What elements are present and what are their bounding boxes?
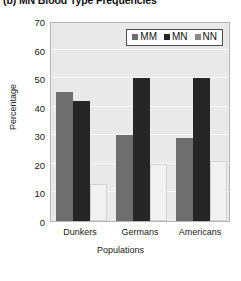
bar-group [116,23,167,221]
chart-legend: MMMNNN [126,29,223,46]
bar-americans-mm [176,138,193,221]
x-axis-title: Populations [0,245,241,255]
bar-group [176,23,227,221]
bar-dunkers-nn [90,184,107,221]
bar-dunkers-mn [73,101,90,221]
bar-group [56,23,107,221]
bar-germans-nn [150,164,167,221]
legend-swatch-icon [164,34,170,40]
y-tick-label: 0 [19,217,45,228]
y-tick-label: 20 [19,159,45,170]
bar-germans-mm [116,135,133,221]
x-tick-label: Germans [121,227,158,237]
x-tick-label: Dunkers [63,227,97,237]
legend-item-mn[interactable]: MN [164,32,188,42]
bar-americans-nn [210,161,227,221]
legend-swatch-icon [132,34,138,40]
x-tick-label: Americans [179,227,222,237]
legend-item-mm[interactable]: MM [132,32,157,42]
bar-americans-mn [193,78,210,221]
bar-dunkers-mm [56,92,73,221]
y-tick-label: 30 [19,131,45,142]
y-tick-label: 40 [19,102,45,113]
chart-figure: (b) MN Blood Type Frequencies Percentage… [0,0,241,281]
y-tick-label: 50 [19,74,45,85]
plot-area: MMMNNN [50,22,230,222]
legend-label: NN [203,32,217,42]
bar-germans-mn [133,78,150,221]
legend-item-nn[interactable]: NN [195,32,217,42]
y-axis-title: Percentage [8,67,18,147]
legend-swatch-icon [195,34,201,40]
y-tick-label: 70 [19,17,45,28]
y-tick-label: 10 [19,188,45,199]
legend-label: MN [172,32,188,42]
legend-label: MM [140,32,157,42]
chart-title: (b) MN Blood Type Frequencies [3,0,157,6]
y-tick-label: 60 [19,45,45,56]
